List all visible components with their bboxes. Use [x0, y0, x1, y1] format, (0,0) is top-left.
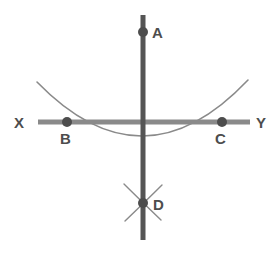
point-c	[217, 117, 227, 127]
geometric-construction-diagram: A B C D X Y	[0, 0, 278, 253]
point-b	[62, 117, 72, 127]
label-a: A	[152, 24, 163, 41]
label-c: C	[215, 130, 226, 147]
label-d: D	[153, 196, 164, 213]
point-a	[138, 27, 148, 37]
construction-canvas: A B C D X Y	[0, 0, 278, 253]
label-y: Y	[256, 114, 266, 131]
label-b: B	[60, 130, 71, 147]
label-x: X	[14, 114, 24, 131]
point-d	[138, 198, 148, 208]
